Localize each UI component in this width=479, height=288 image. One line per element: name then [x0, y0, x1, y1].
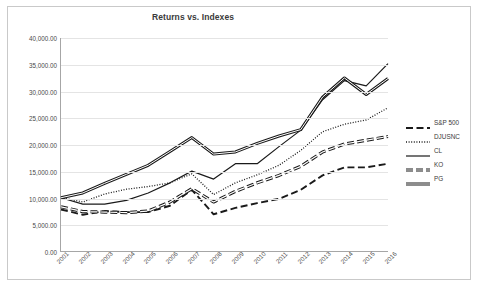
- plot-area: [60, 38, 388, 252]
- x-axis-tick-label: 2009: [230, 250, 245, 265]
- x-axis-tick-label: 2004: [121, 250, 136, 265]
- legend-label-djusnc: DJUSNC: [434, 133, 460, 140]
- series-line-inner: [61, 137, 388, 213]
- x-axis-tick-label: 2001: [55, 250, 70, 265]
- chart-container: Returns vs. Indexes 40,000.0035,000.0030…: [7, 6, 471, 280]
- y-axis-tick-label: 0.00: [9, 249, 57, 256]
- plot-wrapper: 40,000.0035,000.0030,000.0025,000.0020,0…: [8, 7, 472, 279]
- y-axis-tick-label: 25,000.00: [9, 115, 57, 122]
- y-axis-tick-label: 15,000.00: [9, 168, 57, 175]
- x-axis-tick-label: 2006: [164, 250, 179, 265]
- legend-swatch-cl: [406, 146, 430, 154]
- legend-label-pg: PG: [434, 175, 443, 182]
- legend-swatch-djusnc: [406, 132, 430, 140]
- series-line-ko: [61, 137, 388, 213]
- gridline: [61, 65, 388, 66]
- x-axis-tick-label: 2010: [252, 250, 267, 265]
- x-axis-tick-label: 2002: [77, 250, 92, 265]
- legend-item-pg[interactable]: PG: [406, 171, 472, 185]
- x-axis-tick-label: 2011: [274, 250, 289, 265]
- gridline: [61, 172, 388, 173]
- y-axis-tick-label: 30,000.00: [9, 88, 57, 95]
- y-axis-tick-label: 5,000.00: [9, 222, 57, 229]
- gridline: [61, 225, 388, 226]
- gridline: [61, 38, 388, 39]
- legend-label-cl: CL: [434, 147, 442, 154]
- gridline: [61, 199, 388, 200]
- x-axis-tick-label: 2016: [383, 250, 398, 265]
- gridline: [61, 118, 388, 119]
- legend-swatch-pg: [406, 174, 430, 182]
- legend-swatch-ko: [406, 160, 430, 168]
- x-axis-tick-label: 2012: [296, 250, 311, 265]
- y-axis-tick-label: 40,000.00: [9, 35, 57, 42]
- legend-item-djusnc[interactable]: DJUSNC: [406, 129, 472, 143]
- series-line-djusnc: [61, 108, 388, 202]
- y-axis-tick-label: 10,000.00: [9, 195, 57, 202]
- x-axis-tick-label: 2013: [317, 250, 332, 265]
- legend: S&P 500DJUSNCCLKOPG: [406, 115, 472, 185]
- series-line-pg: [61, 78, 388, 198]
- gridline: [61, 145, 388, 146]
- legend-item-cl[interactable]: CL: [406, 143, 472, 157]
- y-axis: 40,000.0035,000.0030,000.0025,000.0020,0…: [8, 38, 57, 252]
- x-axis-tick-label: 2003: [99, 250, 114, 265]
- gridline: [61, 92, 388, 93]
- legend-label-ko: KO: [434, 161, 443, 168]
- legend-label-s-p-500: S&P 500: [434, 119, 459, 126]
- x-axis: 2001200220032004200520062007200820092010…: [60, 253, 388, 279]
- x-axis-tick-label: 2014: [339, 250, 354, 265]
- legend-item-s-p-500[interactable]: S&P 500: [406, 115, 472, 129]
- x-axis-tick-label: 2008: [208, 250, 223, 265]
- y-axis-tick-label: 35,000.00: [9, 61, 57, 68]
- legend-swatch-s-p-500: [406, 118, 430, 126]
- legend-item-ko[interactable]: KO: [406, 157, 472, 171]
- y-axis-tick-label: 20,000.00: [9, 142, 57, 149]
- x-axis-tick-label: 2007: [186, 250, 201, 265]
- x-axis-tick-label: 2005: [142, 250, 157, 265]
- x-axis-tick-label: 2015: [361, 250, 376, 265]
